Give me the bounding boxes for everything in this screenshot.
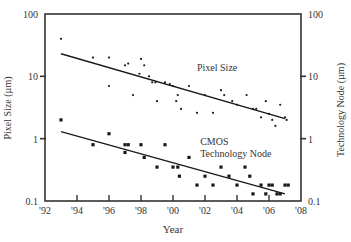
trend-line: [61, 132, 285, 194]
data-point-square: [248, 175, 251, 178]
data-point-dot: [212, 112, 214, 114]
data-point-square: [127, 143, 130, 146]
data-point-dot: [220, 89, 222, 91]
plot-frame: [45, 14, 301, 201]
data-point-square: [219, 165, 222, 168]
data-point-dot: [223, 94, 225, 96]
data-point-square: [176, 165, 179, 168]
x-tick-label: '06: [263, 205, 275, 216]
data-series: [59, 38, 289, 196]
y-tick-label: 10: [28, 71, 38, 82]
data-point-dot: [108, 56, 110, 58]
y2-tick-label: 100: [308, 9, 323, 20]
data-point-dot: [286, 119, 288, 121]
data-point-square: [203, 175, 206, 178]
series-annotation: CMOS: [200, 136, 228, 147]
data-point-dot: [177, 94, 179, 96]
data-point-square: [163, 143, 166, 146]
y2-tick-label: 0.1: [308, 196, 321, 207]
data-point-square: [107, 132, 110, 135]
data-point-square: [271, 183, 274, 186]
data-point-dot: [143, 64, 145, 66]
x-tick-label: '94: [71, 205, 83, 216]
x-axis-label: Year: [163, 223, 184, 235]
y2-tick-label: 10: [308, 71, 318, 82]
data-point-square: [211, 183, 214, 186]
x-tick-label: '02: [199, 205, 211, 216]
x-tick-label: '04: [231, 205, 243, 216]
data-point-square: [267, 183, 270, 186]
data-point-dot: [180, 108, 182, 110]
x-tick-label: '00: [167, 205, 179, 216]
series-pixel-size: [60, 38, 288, 127]
data-point-dot: [246, 94, 248, 96]
data-point-square: [139, 143, 142, 146]
data-point-dot: [124, 64, 126, 66]
data-point-square: [235, 183, 238, 186]
data-point-square: [143, 156, 146, 159]
plot-border: [45, 14, 301, 201]
data-point-square: [251, 192, 254, 195]
x-tick-label: '08: [295, 205, 307, 216]
data-point-dot: [279, 104, 281, 106]
data-point-dot: [188, 85, 190, 87]
data-point-dot: [132, 94, 134, 96]
data-point-square: [287, 183, 290, 186]
data-point-square: [275, 192, 278, 195]
data-point-dot: [151, 81, 153, 83]
data-point-dot: [140, 58, 142, 60]
x-tick-label: '92: [39, 205, 51, 216]
chart: '92'94'96'98'00'02'04'06'08 0.1110100 0.…: [0, 0, 351, 242]
data-point-dot: [260, 116, 262, 118]
x-axis: '92'94'96'98'00'02'04'06'08: [39, 195, 307, 216]
data-point-dot: [175, 100, 177, 102]
data-point-dot: [148, 75, 150, 77]
y-axis-right: 0.1110100: [300, 9, 323, 207]
y-tick-label: 0.1: [26, 196, 39, 207]
data-point-square: [123, 151, 126, 154]
y2-axis-label: Technology Node (µm): [335, 63, 347, 157]
data-point-square: [123, 143, 126, 146]
series-annotation: Pixel Size: [197, 62, 238, 73]
y2-tick-label: 1: [308, 134, 313, 145]
trend-line: [61, 54, 285, 119]
y-tick-label: 1: [33, 134, 38, 145]
data-point-square: [283, 183, 286, 186]
data-point-square: [155, 165, 158, 168]
data-point-square: [171, 165, 174, 168]
data-point-dot: [127, 63, 129, 65]
data-point-square: [187, 156, 190, 159]
data-point-dot: [231, 100, 233, 102]
data-point-square: [264, 192, 267, 195]
x-tick-label: '98: [135, 205, 147, 216]
data-point-square: [195, 183, 198, 186]
data-point-square: [59, 118, 62, 121]
data-point-square: [91, 143, 94, 146]
data-point-dot: [108, 85, 110, 87]
data-point-dot: [156, 100, 158, 102]
data-point-dot: [138, 73, 140, 75]
data-point-square: [243, 165, 246, 168]
data-point-dot: [92, 56, 94, 58]
series-annotation: Technology Node: [200, 148, 272, 159]
x-tick-label: '96: [103, 205, 115, 216]
data-point-dot: [60, 38, 62, 40]
data-point-dot: [196, 112, 198, 114]
data-point-dot: [271, 119, 273, 121]
data-point-dot: [274, 125, 276, 127]
data-point-dot: [265, 100, 267, 102]
y-axis-left: 0.1110100: [23, 9, 46, 207]
data-point-square: [178, 175, 181, 178]
y-axis-label: Pixel Size (µm): [2, 77, 14, 140]
y-tick-label: 100: [23, 9, 38, 20]
